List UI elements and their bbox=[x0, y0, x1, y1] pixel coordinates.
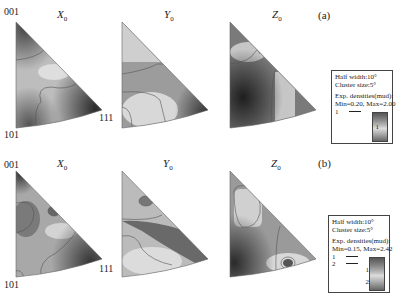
density-scale-bar bbox=[369, 257, 385, 291]
pole-001-b: 001 bbox=[4, 160, 19, 170]
ipf-triangle-z0-b bbox=[230, 171, 318, 279]
legend-min-max: Min=0.15, Max=2.42 bbox=[332, 245, 387, 253]
legend-cluster-size: Cluster size:5° bbox=[332, 226, 387, 234]
legend-half-width: Half width:10° bbox=[335, 73, 390, 81]
scale-tick-1: 1 bbox=[366, 267, 370, 274]
legend-densities-label: Exp. densities(mud): bbox=[335, 92, 390, 100]
legend-densities-label: Exp. densities(mud): bbox=[332, 237, 387, 245]
ipf-triangle-y0-a bbox=[122, 22, 210, 130]
legend-min-max: Min=0.20, Max=2.00 bbox=[335, 100, 390, 108]
legend-box-b: Half width:10° Cluster size:5° Exp. dens… bbox=[328, 215, 390, 293]
contour-line-sample-2 bbox=[346, 263, 358, 264]
ipf-triangle-z0-a bbox=[230, 22, 318, 130]
scale-tick-2: 2 bbox=[366, 279, 370, 286]
panel-label-b: (b) bbox=[318, 158, 331, 169]
ipf-triangle-x0-a bbox=[16, 22, 104, 130]
ipf-triangle-x0-b bbox=[16, 171, 104, 279]
density-scale-bar bbox=[372, 112, 388, 142]
contour-line-sample-1 bbox=[346, 256, 358, 257]
legend-box-a: Half width:10° Cluster size:5° Exp. dens… bbox=[331, 70, 393, 144]
pole-101-b: 101 bbox=[4, 280, 19, 290]
ipf-triangle-y0-b bbox=[122, 171, 210, 279]
contour-line-sample bbox=[349, 111, 361, 112]
pole-001-a: 001 bbox=[4, 7, 19, 17]
pole-101-a: 101 bbox=[4, 130, 19, 140]
legend-cluster-size: Cluster size:5° bbox=[335, 81, 390, 89]
legend-half-width: Half width:10° bbox=[332, 218, 387, 226]
panel-label-a: (a) bbox=[318, 10, 330, 21]
scale-tick-1: 1 bbox=[376, 124, 380, 131]
